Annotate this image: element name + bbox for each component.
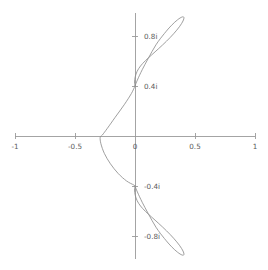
complex-plane-plot: -1-0.500.51 0.8i0.4i-0.4i-0.8i xyxy=(0,0,268,270)
x-tick-label: 0.5 xyxy=(189,142,200,151)
x-tick-label: 0 xyxy=(133,142,138,151)
x-tick-label: -0.5 xyxy=(68,142,82,151)
plot-container: -1-0.500.51 0.8i0.4i-0.4i-0.8i xyxy=(0,0,268,270)
y-tick-label: -0.8i xyxy=(144,232,160,241)
x-tick-label: 1 xyxy=(253,142,258,151)
y-tick-label: -0.4i xyxy=(144,182,160,191)
y-tick-label: 0.8i xyxy=(144,32,157,41)
x-tick-label: -1 xyxy=(11,142,18,151)
y-tick-label: 0.4i xyxy=(144,82,157,91)
axes-group xyxy=(15,13,255,259)
